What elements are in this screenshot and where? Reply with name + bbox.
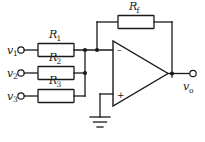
circuit-diagram: R f R 1 v 1 R 2 v 2 R 3 v 3 [0, 0, 205, 142]
label-r2-subscript: 2 [57, 57, 62, 66]
terminal-vo [190, 70, 196, 76]
label-r3-subscript: 3 [57, 80, 62, 89]
noninverting-input-sign: + [117, 90, 125, 100]
inverting-input-sign: – [117, 45, 122, 55]
terminal-v1 [18, 47, 24, 53]
label-v2-subscript: 2 [13, 72, 18, 81]
node-summing-feedback [95, 48, 99, 52]
terminal-v2 [18, 70, 24, 76]
label-r1-subscript: 1 [57, 34, 62, 43]
node-summing-r2 [83, 71, 87, 75]
node-summing-r1 [83, 48, 87, 52]
terminal-v3 [18, 93, 24, 99]
node-output-feedback [170, 71, 174, 75]
circuit-canvas: R f R 1 v 1 R 2 v 2 R 3 v 3 [0, 0, 205, 142]
label-rf-subscript: f [137, 6, 141, 15]
label-v3-subscript: 3 [13, 95, 18, 104]
resistor-rf [118, 16, 154, 29]
resistor-r3 [38, 90, 74, 103]
label-vo-subscript: o [189, 86, 194, 95]
label-v1-subscript: 1 [13, 49, 18, 58]
